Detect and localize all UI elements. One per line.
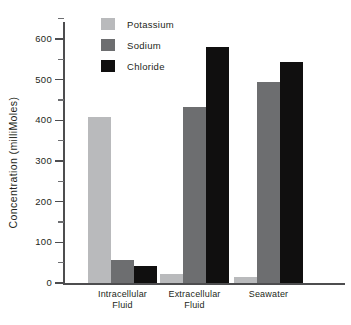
legend: PotassiumSodiumChloride	[101, 15, 211, 78]
y-tick-label: 100	[12, 236, 52, 247]
y-tick-major	[55, 79, 64, 80]
bar-chloride-2	[280, 62, 303, 283]
y-tick-major	[55, 38, 64, 39]
legend-label-sodium: Sodium	[127, 40, 161, 51]
x-axis-label-line: Fluid	[150, 300, 240, 311]
bar-potassium-1	[160, 274, 183, 283]
y-tick-label: 300	[12, 155, 52, 166]
y-tick-label: 200	[12, 196, 52, 207]
y-tick-label: 500	[12, 74, 52, 85]
legend-label-chloride: Chloride	[127, 61, 165, 72]
legend-swatch-sodium	[101, 39, 115, 51]
bar-chart: Concentration (milliMoles) 0100200300400…	[0, 0, 351, 325]
legend-swatch-chloride	[101, 60, 115, 72]
legend-label-potassium: Potassium	[127, 19, 174, 30]
legend-item-sodium: Sodium	[101, 36, 211, 54]
x-axis-line	[63, 283, 345, 285]
bar-chloride-1	[206, 47, 229, 283]
y-tick-label: 0	[12, 277, 52, 288]
legend-swatch-potassium	[101, 18, 115, 30]
legend-item-chloride: Chloride	[101, 57, 211, 75]
bar-sodium-0	[111, 260, 134, 283]
bar-sodium-2	[257, 82, 280, 283]
y-tick-major	[55, 282, 64, 283]
y-tick-major	[55, 120, 64, 121]
bar-potassium-2	[234, 277, 257, 283]
y-tick-label: 600	[12, 33, 52, 44]
y-tick-major	[55, 160, 64, 161]
y-tick-label: 400	[12, 114, 52, 125]
bar-chloride-0	[134, 266, 157, 283]
y-tick-major	[55, 242, 64, 243]
x-axis-label-line: Seawater	[224, 289, 314, 300]
bar-sodium-1	[183, 107, 206, 283]
bar-potassium-0	[88, 117, 111, 283]
y-tick-major	[55, 201, 64, 202]
legend-item-potassium: Potassium	[101, 15, 211, 33]
x-axis-label-2: Seawater	[224, 289, 314, 300]
